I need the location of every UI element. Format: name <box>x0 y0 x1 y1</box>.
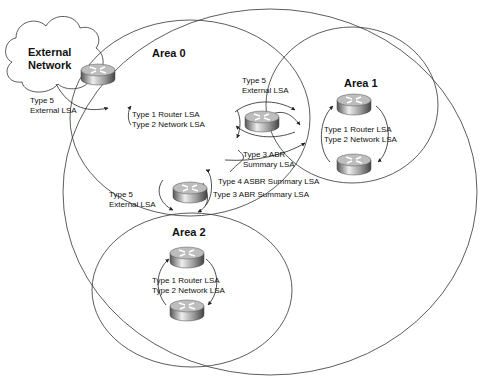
asbr-type5-l1: Type 5 <box>30 96 77 106</box>
area-0-lsa2: Type 2 Network LSA <box>132 120 205 130</box>
abr2-type5-label: Type 5 External LSA <box>109 190 156 210</box>
area1-router-top-icon <box>337 94 371 115</box>
area-1-lsa2: Type 2 Network LSA <box>324 135 397 145</box>
abr1-type5-l2: External LSA <box>242 86 289 96</box>
external-network-line2: Network <box>28 59 71 72</box>
area-2-lsa-label: Type 1 Router LSA Type 2 Network LSA <box>152 276 225 296</box>
area-0-lsa1: Type 1 Router LSA <box>132 110 205 120</box>
ospf-lsa-diagram <box>0 0 480 377</box>
abr1-type5-l1: Type 5 <box>242 76 289 86</box>
area-1-lsa1: Type 1 Router LSA <box>324 125 397 135</box>
abr1-type3-l1: Type 3 ABR <box>243 150 295 160</box>
external-network-line1: External <box>28 46 71 59</box>
abr2-type5-l2: External LSA <box>109 200 156 210</box>
asbr-type5-label: Type 5 External LSA <box>30 96 77 116</box>
area-0-lsa-label: Type 1 Router LSA Type 2 Network LSA <box>132 110 205 130</box>
type4-asbr-summary-label: Type 4 ASBR Summary LSA <box>218 177 319 187</box>
area-2-lsa1: Type 1 Router LSA <box>152 276 225 286</box>
area2-router-top-icon <box>170 247 204 268</box>
area2-router-bottom-icon <box>170 300 204 321</box>
area-2-lsa2: Type 2 Network LSA <box>152 286 225 296</box>
external-network-label: External Network <box>28 46 71 72</box>
abr1-type3-l2: Summary LSA <box>243 160 295 170</box>
area1-router-bottom-icon <box>337 154 371 175</box>
abr1-type3-label: Type 3 ABR Summary LSA <box>243 150 295 170</box>
area-1-title: Area 1 <box>344 77 378 89</box>
asbr-type5-l2: External LSA <box>30 106 77 116</box>
abr-area2-router-icon <box>173 182 207 203</box>
abr-area1-router-icon <box>245 111 279 132</box>
abr1-type5-label: Type 5 External LSA <box>242 76 289 96</box>
area-0-title: Area 0 <box>152 47 186 59</box>
area-2-title: Area 2 <box>172 226 206 238</box>
abr2-type3-label: Type 3 ABR Summary LSA <box>213 190 309 200</box>
abr2-type5-l1: Type 5 <box>109 190 156 200</box>
area-1-lsa-label: Type 1 Router LSA Type 2 Network LSA <box>324 125 397 145</box>
asbr-router-icon <box>81 64 115 85</box>
